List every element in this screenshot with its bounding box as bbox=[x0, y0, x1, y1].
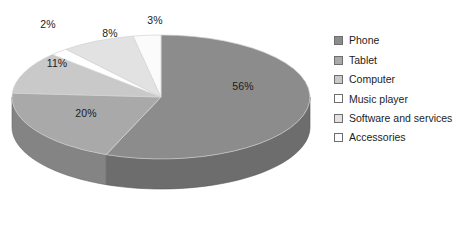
pie-svg bbox=[0, 0, 320, 226]
legend-swatch-icon bbox=[334, 114, 343, 123]
legend-item-phone[interactable]: Phone bbox=[334, 31, 466, 50]
legend-label: Tablet bbox=[349, 55, 377, 66]
pie-plot-area: 56%20%11%2%8%3% bbox=[0, 0, 320, 226]
legend-item-accessories[interactable]: Accessories bbox=[334, 128, 466, 147]
legend-label: Phone bbox=[349, 35, 379, 46]
legend-label: Computer bbox=[349, 74, 395, 85]
legend-swatch-icon bbox=[334, 36, 343, 45]
legend-swatch-icon bbox=[334, 56, 343, 65]
legend-item-music-player[interactable]: Music player bbox=[334, 89, 466, 108]
legend-swatch-icon bbox=[334, 133, 343, 142]
legend-swatch-icon bbox=[334, 94, 343, 103]
legend-item-tablet[interactable]: Tablet bbox=[334, 50, 466, 69]
legend-label: Accessories bbox=[349, 132, 406, 143]
legend-label: Software and services bbox=[349, 113, 452, 124]
legend-swatch-icon bbox=[334, 75, 343, 84]
pie-top-faces bbox=[12, 35, 310, 159]
legend-item-software-and-services[interactable]: Software and services bbox=[334, 109, 466, 128]
legend-item-computer[interactable]: Computer bbox=[334, 70, 466, 89]
chart-legend: PhoneTabletComputerMusic playerSoftware … bbox=[334, 31, 466, 147]
legend-label: Music player bbox=[349, 94, 408, 105]
pie-chart: 56%20%11%2%8%3% PhoneTabletComputerMusic… bbox=[0, 0, 469, 226]
